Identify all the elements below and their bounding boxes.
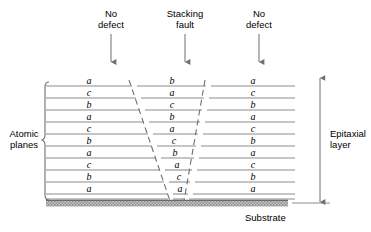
plane-letter-middle-5: c [163,136,185,146]
plane-letter-right-4: c [242,124,264,134]
plane-letter-left-6: a [78,148,100,158]
plane-letter-middle-9: a [169,184,191,194]
plane-letter-middle-1: a [161,88,183,98]
plane-letter-right-3: a [242,112,264,122]
plane-letter-right-6: a [242,148,264,158]
plane-letter-middle-2: c [161,100,183,110]
plane-letter-left-7: c [78,160,100,170]
header-arrows [111,34,259,62]
plane-letter-right-2: b [242,100,264,110]
plane-letter-left-4: c [78,124,100,134]
plane-letter-middle-0: b [161,76,183,86]
plane-letter-right-9: a [242,184,264,194]
plane-letter-middle-6: b [164,148,186,158]
plane-letter-middle-4: a [161,124,183,134]
plane-letter-right-1: c [242,88,264,98]
plane-letter-middle-8: c [168,172,190,182]
plane-letter-right-0: a [242,76,264,86]
plane-letter-left-0: a [78,76,100,86]
diagram-vector-layer [0,0,371,232]
plane-letter-right-5: b [242,136,264,146]
plane-letter-middle-3: b [161,112,183,122]
plane-letter-left-9: a [78,184,100,194]
substrate-bar [46,200,288,206]
plane-letter-right-8: b [242,172,264,182]
plane-letter-right-7: c [242,160,264,170]
plane-letter-left-5: b [78,136,100,146]
stacking-fault-diagram: No defect Stacking fault No defect Atomi… [0,0,371,232]
plane-letter-left-1: c [78,88,100,98]
plane-letter-left-2: b [78,100,100,110]
plane-letter-middle-7: a [166,160,188,170]
plane-letter-left-3: a [78,112,100,122]
plane-letter-left-8: b [78,172,100,182]
